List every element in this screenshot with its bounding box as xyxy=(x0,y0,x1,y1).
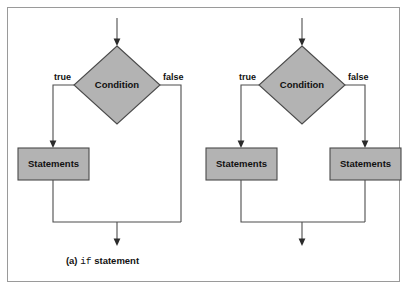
true-branch-arrowhead xyxy=(238,141,245,149)
exit-arrowhead xyxy=(299,239,306,247)
statements-label: Statements xyxy=(28,158,79,169)
true-label: true xyxy=(239,72,256,82)
true-branch-line xyxy=(241,85,259,143)
figure-root: Condition true Statements false (a) if s… xyxy=(0,0,409,291)
figure-panels: Condition true Statements false (a) if s… xyxy=(0,0,409,291)
false-branch-line xyxy=(345,85,365,143)
condition-label: Condition xyxy=(280,79,325,90)
merge-line xyxy=(53,180,181,222)
caption-if-else-statement: (b) if-else statement xyxy=(392,255,409,267)
panel-if-statement: Condition true Statements false (a) if s… xyxy=(0,0,205,291)
if-statement-diagram: Condition true Statements false xyxy=(0,0,205,291)
true-label: true xyxy=(54,72,71,82)
statements-true-label: Statements xyxy=(216,158,267,169)
caption-if-statement: (a) if statement xyxy=(0,255,205,267)
true-branch-arrowhead xyxy=(50,141,57,149)
condition-label: Condition xyxy=(95,79,140,90)
caption-a-suffix: statement xyxy=(92,255,140,266)
exit-arrowhead xyxy=(114,239,121,247)
if-else-statement-diagram: Condition true false Statements Statemen… xyxy=(196,0,409,291)
false-label: false xyxy=(163,72,184,82)
false-branch-line xyxy=(160,85,181,222)
true-branch-line xyxy=(53,85,74,143)
entry-arrowhead xyxy=(299,39,306,47)
panel-if-else-statement: Condition true false Statements Statemen… xyxy=(196,0,409,291)
caption-a-code: if xyxy=(80,256,91,267)
caption-a-prefix: (a) xyxy=(66,255,80,266)
entry-arrowhead xyxy=(114,39,121,47)
statements-false-label: Statements xyxy=(340,158,391,169)
merge-line-left xyxy=(241,180,365,222)
false-branch-arrowhead xyxy=(362,141,369,149)
false-label: false xyxy=(348,72,369,82)
